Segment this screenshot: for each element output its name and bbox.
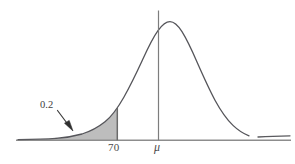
normal-distribution-figure: 0.2 70 μ [0, 0, 295, 164]
mean-tick-label: μ [154, 140, 160, 155]
tail-area-label: 0.2 [40, 99, 53, 110]
bell-curve-plot [0, 0, 295, 164]
bell-curve-path [56, 22, 249, 139]
tail-area-arrow [58, 111, 74, 132]
cutoff-tick-label: 70 [108, 141, 119, 153]
curve-right-tail-segment [258, 136, 290, 137]
